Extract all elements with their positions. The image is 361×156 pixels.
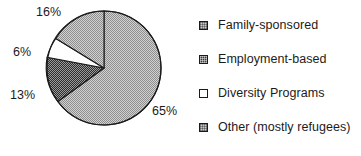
legend-swatch-light-stipple-icon — [199, 123, 208, 132]
legend-label-diversity-programs: Diversity Programs — [218, 86, 324, 100]
pie-plot-area: 16% 6% 13% 65% — [0, 0, 196, 156]
legend-label-other-refugees: Other (mostly refugees) — [218, 120, 350, 134]
legend-swatch-white-icon — [199, 89, 208, 98]
pie-value-label-other-refugees: 16% — [36, 5, 61, 19]
legend-item-diversity-programs: Diversity Programs — [199, 86, 324, 100]
legend-item-other-refugees: Other (mostly refugees) — [199, 120, 350, 134]
pie-value-label-diversity-programs: 6% — [13, 45, 31, 59]
pie-svg — [0, 0, 196, 156]
legend-swatch-dark-checker-icon — [199, 55, 208, 64]
legend-swatch-light-stipple-icon — [199, 21, 208, 30]
legend-item-employment-based: Employment-based — [199, 52, 327, 66]
pie-chart-figure: 16% 6% 13% 65% Family-sponsored Employme… — [0, 0, 361, 156]
legend-item-family-sponsored: Family-sponsored — [199, 18, 318, 32]
pie-value-label-employment-based: 13% — [10, 88, 35, 102]
legend-label-employment-based: Employment-based — [218, 52, 327, 66]
legend-label-family-sponsored: Family-sponsored — [218, 18, 318, 32]
pie-value-label-family-sponsored: 65% — [152, 104, 177, 118]
chart-legend: Family-sponsored Employment-based Divers… — [199, 13, 361, 147]
